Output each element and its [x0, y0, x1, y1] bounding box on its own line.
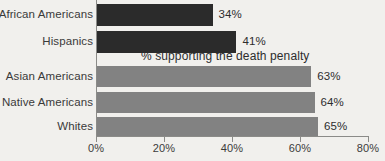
bar-value-label: 41% — [242, 35, 265, 47]
category-label: Whites — [57, 120, 93, 132]
category-label: Asian Americans — [6, 70, 93, 82]
category-label: African Americans — [0, 8, 93, 20]
chart-annotation: % supporting the death penalty — [141, 49, 309, 63]
bar — [97, 92, 315, 113]
bar-value-label: 34% — [219, 8, 242, 20]
bar-value-label: 65% — [324, 120, 347, 132]
category-label: Native Americans — [2, 96, 93, 108]
axis-tick-label: 0% — [88, 142, 104, 154]
bar — [97, 4, 213, 26]
bar-value-label: 63% — [317, 70, 340, 82]
bar-value-label: 64% — [321, 96, 344, 108]
bar — [97, 66, 311, 87]
category-label: Hispanics — [42, 35, 93, 47]
axis-tick-label: 60% — [289, 142, 311, 154]
bar-chart: 0%20%40%60%80% 34%41%63%64%65% African A… — [0, 0, 385, 161]
axis-tick-label: 80% — [357, 142, 379, 154]
axis-tick-label: 20% — [153, 142, 175, 154]
axis-tick-label: 40% — [221, 142, 243, 154]
bar — [97, 117, 318, 136]
